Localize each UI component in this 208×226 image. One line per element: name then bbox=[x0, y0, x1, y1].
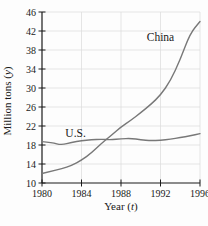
y-tick-label: 26 bbox=[26, 102, 36, 113]
chart-canvas: 1014182226303438424619801984198819921996… bbox=[0, 0, 208, 226]
y-tick-label: 38 bbox=[26, 45, 36, 56]
y-axis-label: Million tons (y) bbox=[1, 31, 15, 171]
y-tick-label: 18 bbox=[26, 140, 36, 151]
x-tick-label: 1992 bbox=[151, 188, 171, 199]
x-tick-label: 1996 bbox=[190, 188, 208, 199]
y-tick-label: 10 bbox=[26, 178, 36, 189]
x-tick-label: 1988 bbox=[111, 188, 131, 199]
y-tick-label: 42 bbox=[26, 26, 36, 37]
line-chart: 1014182226303438424619801984198819921996… bbox=[0, 0, 208, 226]
y-tick-label: 46 bbox=[26, 7, 36, 18]
x-tick-label: 1984 bbox=[72, 188, 92, 199]
y-tick-label: 30 bbox=[26, 83, 36, 94]
x-tick-label: 1980 bbox=[32, 188, 52, 199]
series-label-us: U.S. bbox=[65, 127, 86, 139]
y-tick-label: 34 bbox=[26, 64, 36, 75]
y-tick-label: 14 bbox=[26, 159, 36, 170]
x-axis-label: Year (t) bbox=[42, 200, 200, 212]
y-tick-label: 22 bbox=[26, 121, 36, 132]
series-label-china: China bbox=[147, 31, 174, 43]
